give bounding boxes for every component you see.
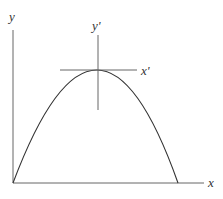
parabola-diagram: y x y' x' — [0, 0, 223, 199]
x-axis-label: x — [207, 175, 214, 190]
y-prime-label: y' — [90, 18, 101, 33]
y-axis-label: y — [7, 9, 15, 24]
parabola-curve — [13, 70, 178, 183]
x-prime-label: x' — [140, 63, 150, 78]
